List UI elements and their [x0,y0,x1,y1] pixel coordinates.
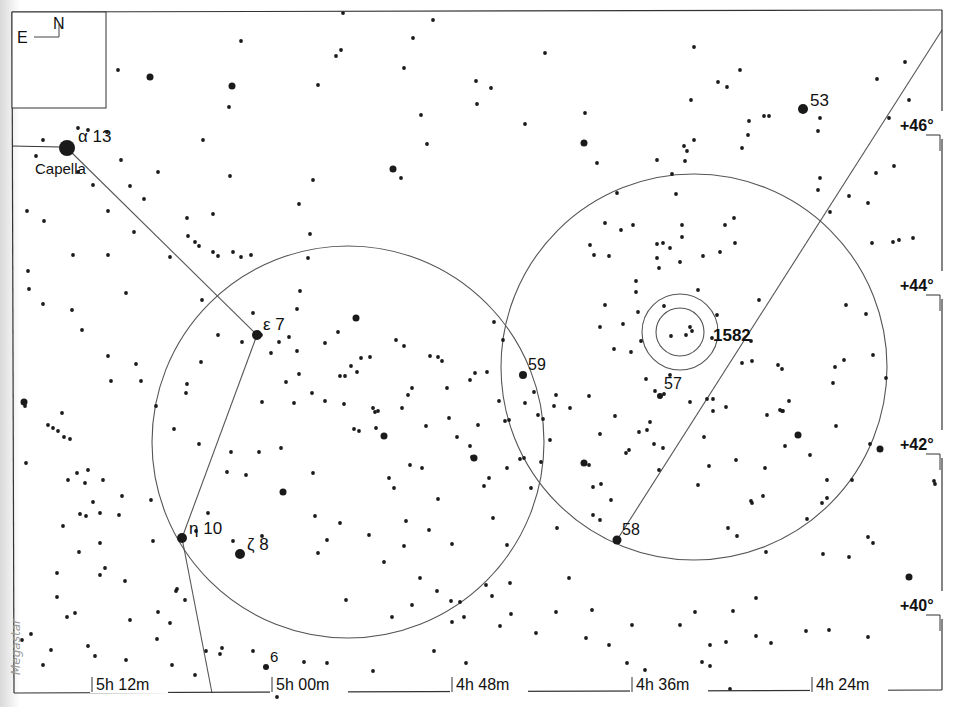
label-zeta-8: ζ 8 [247,535,269,554]
star-dot [41,663,45,667]
star-dot [344,598,348,602]
star-dot [172,427,176,431]
star-dot [724,405,728,409]
star-dot [657,266,661,270]
star-dot [536,413,540,417]
star-dot [767,114,771,118]
star-dot [98,573,102,577]
star-dot [644,377,648,381]
star-dot [662,304,666,308]
star-dot [80,328,84,332]
star-dot [684,333,688,337]
star-dot [295,307,299,311]
star-dot [503,419,507,423]
star-dot [277,340,281,344]
label-epsilon-7: ε 7 [263,315,285,334]
star-dot [134,362,138,366]
star-dot [392,486,396,490]
label-59: 59 [528,356,546,373]
star-dot [218,652,222,656]
star-dot [907,98,911,102]
star-dot [440,359,444,363]
star-dot [435,589,439,593]
star-dot [302,660,306,664]
star-dot [310,391,314,395]
star-dot [51,426,55,430]
star-dot [685,149,689,153]
star-dot [847,555,851,559]
star-dot [700,660,704,664]
star-dot [106,209,110,213]
star-dot [66,478,70,482]
star-dot [523,401,527,405]
star-dot [120,494,124,498]
star-dot [678,260,682,264]
star-dot [342,402,346,406]
star-dot [381,433,388,440]
star-dot [231,539,235,543]
star-dot [338,374,342,378]
star-dot [707,464,711,468]
star-dot [239,39,243,43]
star-dot [476,423,480,427]
star-capella [59,140,75,156]
ra-label: 4h 36m [636,676,689,693]
ngc1582-outer-circle [642,294,718,370]
star-dot [420,466,424,470]
star-dot [418,576,422,580]
star-dot [211,212,215,216]
star-dot [323,399,327,403]
star-dot [156,170,160,174]
star-dot [468,444,472,448]
star-dot [185,216,189,220]
star-dot [284,380,288,384]
star-dot [55,571,59,575]
star-dot [754,634,758,638]
star-dot [884,376,888,380]
star-dot [298,289,302,293]
star-dot [598,325,602,329]
star-dot [292,401,296,405]
star-dot [670,172,674,176]
star-dot [371,669,375,673]
star-dot [833,365,837,369]
star-dot [731,609,735,613]
star-dot [56,429,60,433]
star-dot [73,611,77,615]
star-dot [669,334,673,338]
star-dot [204,649,208,653]
star-dot [655,158,659,162]
star-dot [548,438,552,442]
star-dot [723,223,727,227]
star-dot [587,463,591,467]
star-dot [249,253,253,257]
star-dot [410,603,414,607]
star-dot [696,288,700,292]
finder-circles [152,174,887,638]
star-dot [692,138,696,142]
star-dot [183,598,187,602]
star-dot [155,637,159,641]
star-dot [374,426,378,430]
compass-north-label: N [53,15,65,32]
star-dot [185,382,189,386]
star-dot [297,372,301,376]
star-dot [390,615,394,619]
star-dot [199,360,203,364]
star-dot [619,228,623,232]
star-dot [532,390,536,394]
star-dot [84,514,88,518]
star-dot [419,113,423,117]
star-dot [376,409,380,413]
star-dot [279,446,283,450]
star-dot [847,194,851,198]
star-dot [523,122,527,126]
star-dot [754,596,758,600]
star-dot [98,511,102,515]
star-dot [61,524,65,528]
star-dot [680,235,684,239]
star-dot [816,188,820,192]
star-dot [68,437,72,441]
star-dot [287,335,291,339]
star-dot [295,349,299,353]
